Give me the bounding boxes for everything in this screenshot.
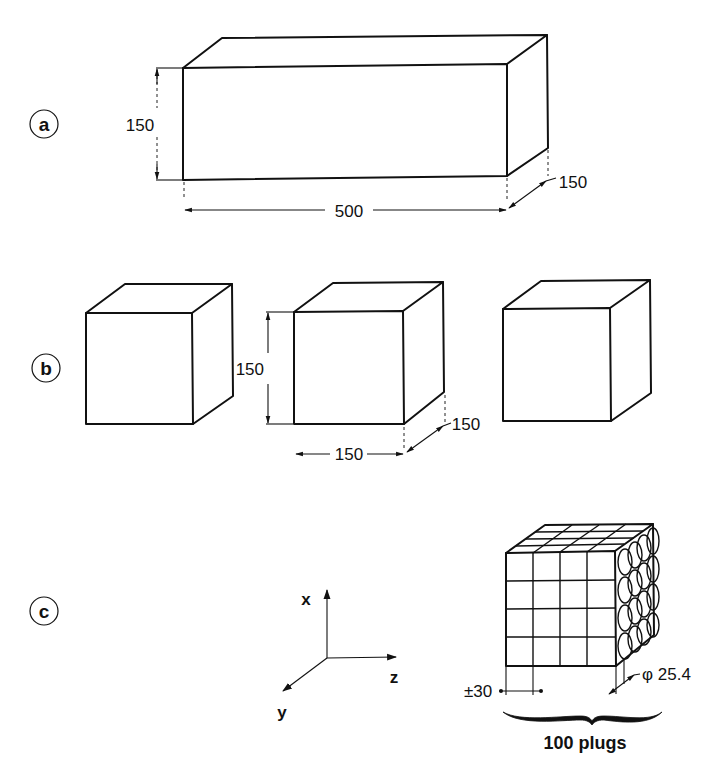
z-axis-label: z bbox=[390, 668, 399, 687]
cube-width-label: 150 bbox=[335, 445, 363, 464]
plug-spacing-dimension: ±30 bbox=[464, 666, 543, 701]
cube-1 bbox=[86, 284, 233, 424]
plugs-caption: 100 plugs bbox=[543, 733, 626, 753]
prism-depth-label: 150 bbox=[559, 173, 587, 192]
cube-height-label: 150 bbox=[236, 360, 264, 379]
panel-c-marker: c bbox=[30, 597, 58, 625]
cube-2-width-dimension: 150 bbox=[296, 427, 404, 464]
y-axis-label: y bbox=[277, 703, 287, 722]
panel-a-marker: a bbox=[30, 110, 58, 138]
panel-c-letter: c bbox=[39, 601, 50, 622]
plug-spacing-label: ±30 bbox=[464, 682, 492, 701]
plug-diameter-dimension: φ 25.4 bbox=[609, 660, 691, 694]
prism bbox=[183, 35, 548, 180]
panel-a: a 150 500 bbox=[30, 35, 587, 221]
prism-length-label: 500 bbox=[335, 202, 363, 221]
z-axis-arrow bbox=[327, 657, 396, 658]
coordinate-axes: x z y bbox=[277, 590, 398, 722]
plug-diameter-label: φ 25.4 bbox=[642, 665, 691, 684]
plugs-brace: 100 plugs bbox=[503, 712, 662, 753]
x-axis-label: x bbox=[301, 590, 311, 609]
prism-height-dimension: 150 bbox=[126, 68, 183, 180]
panel-b-letter: b bbox=[40, 358, 52, 379]
specimen-diagram: a 150 500 bbox=[0, 0, 719, 765]
cube-3 bbox=[503, 280, 651, 421]
prism-length-dimension: 500 bbox=[184, 178, 507, 221]
panel-a-letter: a bbox=[39, 114, 50, 135]
panel-c: c x z y bbox=[30, 524, 691, 753]
cube-2-depth-dimension: 150 bbox=[407, 395, 480, 452]
prism-depth-dimension: 150 bbox=[509, 150, 587, 208]
panel-b-marker: b bbox=[32, 354, 60, 382]
y-axis-arrow bbox=[283, 658, 327, 691]
cube-2-height-dimension: 150 bbox=[236, 312, 293, 424]
plug-block bbox=[506, 524, 659, 666]
prism-height-label: 150 bbox=[126, 116, 154, 135]
cube-depth-label: 150 bbox=[452, 415, 480, 434]
cube-2 bbox=[294, 282, 444, 424]
panel-b: b 150 150 150 bbox=[32, 280, 651, 464]
